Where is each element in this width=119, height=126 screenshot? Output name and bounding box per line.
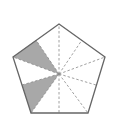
dashed-line	[59, 74, 96, 85]
shaded-triangle	[13, 40, 59, 74]
dashed-line	[59, 74, 88, 113]
dashed-line	[59, 40, 82, 74]
dashed-line	[59, 57, 105, 74]
pentagon-diagram	[0, 0, 119, 126]
